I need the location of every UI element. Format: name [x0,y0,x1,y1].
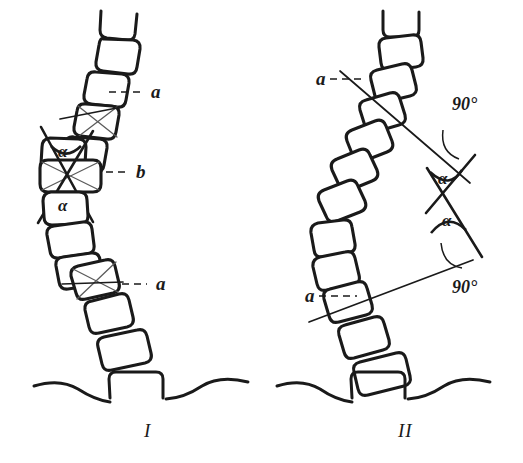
alpha-label-upper: α [58,142,68,161]
panel-numeral-1: I [143,420,152,441]
right-angle-label-lower: 90° [452,277,478,297]
panel-2-spine-column [277,11,490,402]
vertebra-top-bracket-right [383,11,419,37]
vertebra-body [96,39,140,75]
iliac-crest-left [277,383,352,402]
alpha-label-lower: α [442,211,452,230]
label-a-upper: a [316,68,326,89]
vertebra-body [84,72,129,107]
panel-numeral-2: II [397,420,413,441]
right-angle-label-upper: 90° [452,94,478,114]
iliac-crest-right [408,379,490,399]
alpha-label-upper: α [438,169,448,188]
iliac-crest-left [34,383,110,402]
end-vertebra-lower [324,282,373,323]
label-b: b [136,161,146,182]
anatomical-diagram-canvas: a b a α α I [0,0,523,463]
right-angle-arc-upper [443,130,459,159]
vertebra-top-bracket-left [100,11,137,40]
vertebra-body [318,180,366,222]
label-a-lower: a [305,285,315,306]
right-angle-arc-lower [441,243,462,268]
figure-root: a b a α α I [0,0,523,463]
alpha-label-lower: α [58,196,68,215]
label-a-upper: a [151,81,161,102]
vertebra-body [85,294,134,334]
vertebra-body [98,330,152,371]
iliac-crest-right [166,379,248,399]
sacrum-block [109,372,163,398]
vertebra-body [339,317,390,359]
label-a-lower: a [156,273,166,294]
perpendicular-line-lower [427,168,482,257]
